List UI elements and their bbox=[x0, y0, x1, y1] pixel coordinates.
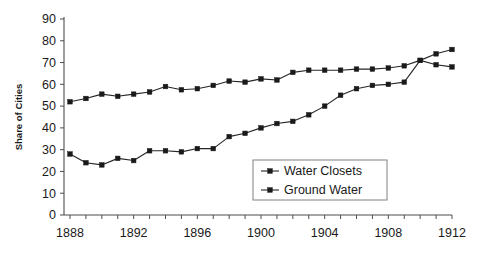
line-chart: 0102030405060708090188818921896190019041… bbox=[0, 0, 482, 261]
x-tick-label-1900: 1900 bbox=[247, 226, 275, 240]
data-point-0-1893 bbox=[147, 148, 152, 153]
data-point-1-1911 bbox=[434, 62, 439, 67]
data-point-1-1912 bbox=[450, 65, 455, 70]
y-tick-label-50: 50 bbox=[42, 99, 56, 113]
y-tick-label-90: 90 bbox=[42, 12, 56, 26]
y-axis-title: Share of Cities bbox=[13, 84, 24, 151]
y-tick-label-80: 80 bbox=[42, 34, 56, 48]
x-tick-label-1912: 1912 bbox=[438, 226, 466, 240]
data-point-1-1896 bbox=[195, 86, 200, 91]
data-point-1-1891 bbox=[115, 94, 120, 99]
data-point-1-1901 bbox=[275, 78, 280, 83]
data-point-1-1904 bbox=[322, 68, 327, 73]
chart-container: 0102030405060708090188818921896190019041… bbox=[0, 0, 482, 261]
data-point-0-1912 bbox=[450, 47, 455, 52]
data-point-1-1907 bbox=[370, 67, 375, 72]
data-point-0-1911 bbox=[434, 52, 439, 57]
data-point-0-1905 bbox=[338, 93, 343, 98]
y-tick-label-10: 10 bbox=[42, 187, 56, 201]
x-tick-label-1896: 1896 bbox=[183, 226, 211, 240]
data-point-0-1897 bbox=[211, 146, 216, 151]
data-point-0-1904 bbox=[322, 104, 327, 109]
y-tick-label-20: 20 bbox=[42, 165, 56, 179]
data-point-0-1901 bbox=[275, 121, 280, 126]
data-point-0-1898 bbox=[227, 134, 232, 139]
data-point-1-1906 bbox=[354, 67, 359, 72]
data-point-0-1903 bbox=[306, 113, 311, 118]
data-point-1-1909 bbox=[402, 64, 407, 69]
data-point-1-1888 bbox=[68, 99, 73, 104]
data-point-0-1906 bbox=[354, 86, 359, 91]
data-point-1-1899 bbox=[243, 80, 248, 85]
legend-label-1: Ground Water bbox=[284, 183, 362, 197]
data-point-0-1909 bbox=[402, 80, 407, 85]
y-tick-label-40: 40 bbox=[42, 121, 56, 135]
data-point-0-1888 bbox=[68, 152, 73, 157]
data-point-0-1895 bbox=[179, 150, 184, 155]
data-point-1-1893 bbox=[147, 90, 152, 95]
data-point-1-1903 bbox=[306, 68, 311, 73]
y-tick-label-70: 70 bbox=[42, 56, 56, 70]
data-point-0-1900 bbox=[259, 126, 264, 131]
data-point-0-1896 bbox=[195, 146, 200, 151]
legend-marker-1 bbox=[268, 188, 273, 193]
legend-marker-0 bbox=[268, 169, 273, 174]
data-point-1-1895 bbox=[179, 87, 184, 92]
data-point-1-1890 bbox=[100, 92, 105, 97]
data-point-0-1891 bbox=[115, 156, 120, 161]
data-point-0-1899 bbox=[243, 131, 248, 136]
data-point-0-1902 bbox=[291, 119, 296, 124]
x-tick-label-1892: 1892 bbox=[120, 226, 148, 240]
y-tick-label-30: 30 bbox=[42, 143, 56, 157]
y-tick-label-0: 0 bbox=[49, 208, 56, 222]
data-point-1-1900 bbox=[259, 77, 264, 82]
data-point-0-1889 bbox=[84, 160, 89, 165]
y-tick-label-60: 60 bbox=[42, 78, 56, 92]
x-tick-label-1904: 1904 bbox=[311, 226, 339, 240]
data-point-1-1897 bbox=[211, 83, 216, 88]
plot-area: 0102030405060708090188818921896190019041… bbox=[13, 12, 466, 240]
data-point-1-1892 bbox=[131, 92, 136, 97]
data-point-1-1905 bbox=[338, 68, 343, 73]
x-tick-label-1888: 1888 bbox=[56, 226, 84, 240]
x-tick-label-1908: 1908 bbox=[374, 226, 402, 240]
data-point-1-1910 bbox=[418, 58, 423, 63]
data-point-1-1908 bbox=[386, 66, 391, 71]
data-point-0-1890 bbox=[100, 163, 105, 168]
data-point-0-1908 bbox=[386, 82, 391, 87]
data-point-1-1889 bbox=[84, 96, 89, 101]
legend-label-0: Water Closets bbox=[284, 164, 362, 178]
data-point-0-1892 bbox=[131, 158, 136, 163]
data-point-1-1902 bbox=[291, 70, 296, 75]
data-point-0-1907 bbox=[370, 83, 375, 88]
data-point-0-1894 bbox=[163, 148, 168, 153]
data-point-1-1898 bbox=[227, 79, 232, 84]
data-point-1-1894 bbox=[163, 84, 168, 89]
